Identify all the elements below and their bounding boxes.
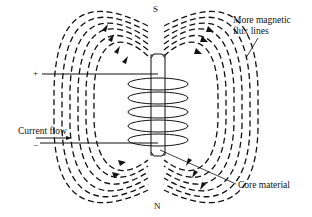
core-material-label: Core material bbox=[238, 180, 290, 191]
flux-line-left-4 bbox=[70, 23, 148, 191]
flux-line-left-2 bbox=[86, 35, 148, 177]
flux-line-left-5 bbox=[62, 17, 148, 196]
flux-callout-leader bbox=[246, 38, 258, 58]
current-flow-label: Current flow bbox=[18, 126, 67, 137]
electromagnet-diagram: S N + − Current flow More magnetic flux … bbox=[0, 0, 312, 217]
arrow-icon bbox=[122, 56, 128, 64]
core-cap-top bbox=[151, 54, 165, 58]
positive-terminal-label: + bbox=[33, 69, 38, 78]
core-rod bbox=[151, 55, 165, 155]
pole-label-south: S bbox=[153, 5, 158, 14]
flux-lines-label-line-2: flux lines bbox=[233, 26, 291, 37]
arrow-icon bbox=[194, 48, 202, 54]
negative-terminal-label: − bbox=[33, 141, 38, 150]
flux-lines-label-line-1: More magnetic bbox=[233, 15, 291, 26]
flux-lines-label: More magnetic flux lines bbox=[233, 15, 291, 37]
core-cap-bottom bbox=[151, 152, 165, 156]
flux-line-left-1 bbox=[94, 42, 148, 170]
flux-line-left-3 bbox=[78, 29, 148, 184]
arrow-icon bbox=[108, 34, 114, 42]
pole-label-north: N bbox=[154, 202, 161, 211]
arrow-icon bbox=[114, 46, 120, 54]
core bbox=[151, 54, 165, 156]
arrow-icon bbox=[206, 26, 214, 32]
arrow-icon bbox=[118, 160, 126, 166]
